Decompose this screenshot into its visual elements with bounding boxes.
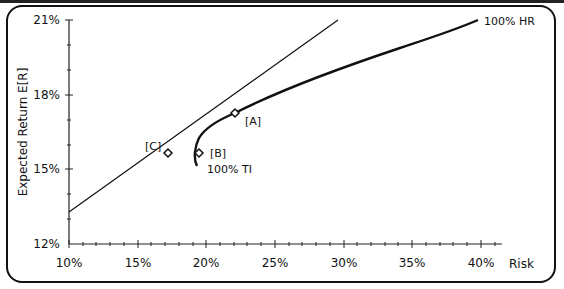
x-tick-label: 40% — [468, 256, 495, 270]
point-b-label: [B] — [210, 147, 226, 160]
capital-allocation-line — [69, 20, 338, 212]
y-tick-label: 15% — [33, 162, 60, 176]
x-tick-label: 35% — [399, 256, 426, 270]
x-tick-label: 30% — [331, 256, 358, 270]
hr-label: 100% HR — [484, 15, 535, 28]
point-c-label: [C] — [145, 140, 161, 153]
point-c-marker — [164, 149, 172, 157]
x-tick-label: 25% — [262, 256, 289, 270]
x-axis-title: Risk — [509, 257, 534, 271]
ti-label: 100% TI — [207, 163, 252, 176]
point-a-marker — [231, 109, 239, 117]
y-tick-label: 21% — [33, 13, 60, 27]
efficient-frontier-curve — [195, 20, 478, 166]
x-tick-label: 15% — [125, 256, 152, 270]
y-axis-title: Expected Return E[R] — [16, 68, 30, 197]
x-tick-label: 20% — [193, 256, 220, 270]
x-tick-label: 10% — [56, 256, 83, 270]
point-a-label: [A] — [245, 115, 261, 128]
y-tick-label: 18% — [33, 88, 60, 102]
y-tick-label: 12% — [33, 237, 60, 251]
chart-plot: 21% 18% 15% 12% 10% 15% 20% 25% 30% 35% … — [0, 0, 564, 289]
